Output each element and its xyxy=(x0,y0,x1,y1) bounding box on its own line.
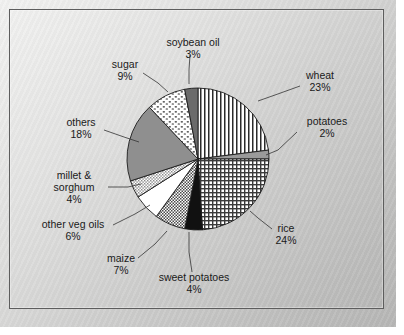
leader-line-wheat xyxy=(258,86,300,101)
slice-label-value: 6% xyxy=(65,230,80,242)
pie-chart: wheat23%potatoes2%rice24%sweet potatoes4… xyxy=(0,0,404,335)
page-margin-bottom xyxy=(0,327,404,335)
pie-slice-group xyxy=(127,88,269,230)
slice-label-wheat: wheat23% xyxy=(305,69,334,93)
slice-label-name: maize xyxy=(107,252,135,264)
slice-label-sugar: sugar9% xyxy=(112,58,139,82)
slice-label-name: soybean oil xyxy=(166,36,219,48)
slice-label-others: others18% xyxy=(66,116,95,140)
pie-slice-rice[interactable] xyxy=(198,159,269,230)
slice-label-name: sweet potatoes xyxy=(159,271,230,283)
slice-label-value: 23% xyxy=(309,81,330,93)
slice-label-value: 4% xyxy=(66,193,81,205)
slice-label-name: sugar xyxy=(112,58,139,70)
slice-label-rice: rice24% xyxy=(275,222,296,246)
slice-label-millet-sorghum: millet &sorghum4% xyxy=(54,169,95,205)
slice-label-value: 3% xyxy=(185,48,200,60)
page-margin-right xyxy=(396,0,404,335)
slice-label-name: sorghum xyxy=(54,181,95,193)
slice-label-name: other veg oils xyxy=(42,218,104,230)
slice-label-value: 2% xyxy=(319,127,334,139)
leader-line-sugar xyxy=(143,73,168,92)
leader-line-other-veg-oils xyxy=(113,205,150,225)
scanned-figure-page: wheat23%potatoes2%rice24%sweet potatoes4… xyxy=(0,0,404,335)
slice-label-value: 18% xyxy=(70,128,91,140)
slice-label-maize: maize7% xyxy=(107,252,135,276)
leader-line-rice xyxy=(250,211,272,229)
slice-label-name: millet & xyxy=(57,169,91,181)
pie-slice-wheat[interactable] xyxy=(198,88,268,159)
slice-label-value: 24% xyxy=(275,234,296,246)
slice-label-name: potatoes xyxy=(307,115,347,127)
slice-label-other-veg-oils: other veg oils6% xyxy=(42,218,104,242)
leader-line-potatoes xyxy=(266,132,297,155)
slice-label-value: 7% xyxy=(113,264,128,276)
slice-label-soybean-oil: soybean oil3% xyxy=(166,36,219,60)
slice-label-value: 4% xyxy=(186,283,201,295)
slice-label-name: rice xyxy=(278,222,295,234)
slice-label-sweet-potatoes: sweet potatoes4% xyxy=(159,271,230,295)
slice-label-name: others xyxy=(66,116,95,128)
leader-line-sweet-potatoes xyxy=(189,232,192,272)
slice-label-name: wheat xyxy=(305,69,334,81)
slice-label-value: 9% xyxy=(117,70,132,82)
leader-line-maize xyxy=(138,231,167,258)
slice-label-potatoes: potatoes2% xyxy=(307,115,347,139)
